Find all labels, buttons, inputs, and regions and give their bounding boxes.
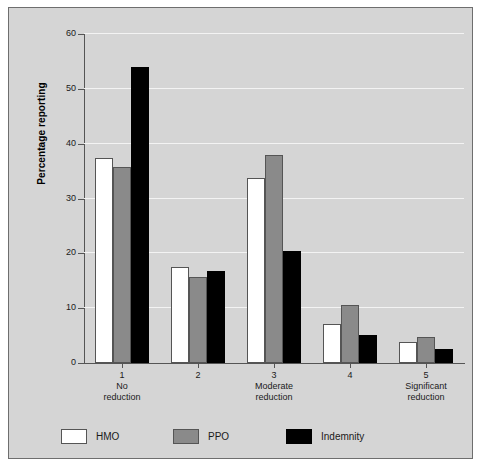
x-tick-3 xyxy=(274,363,275,368)
bar-group-5 xyxy=(399,34,453,363)
y-tick-label-wrap-30: 30 xyxy=(31,199,76,200)
y-tick-label-wrap-0: 0 xyxy=(31,363,76,364)
x-axis-label-number: 5 xyxy=(371,370,481,381)
legend-swatch-ind xyxy=(286,429,312,444)
bar-hmo-3 xyxy=(247,178,265,363)
x-tick-4 xyxy=(350,363,351,368)
y-tick-label: 30 xyxy=(36,193,76,203)
legend-label-ind: Indemnity xyxy=(321,431,364,442)
legend-swatch-ppo xyxy=(173,429,199,444)
y-tick-label-wrap-40: 40 xyxy=(31,144,76,145)
x-axis-label-line2: reduction xyxy=(219,392,329,403)
y-tick-label: 10 xyxy=(36,302,76,312)
bar-hmo-4 xyxy=(323,324,341,363)
legend-item-hmo[interactable]: HMO xyxy=(61,425,119,447)
bar-hmo-5 xyxy=(399,342,417,363)
legend-swatch-hmo xyxy=(61,429,87,444)
y-axis-title: Percentage reporting xyxy=(36,54,47,214)
bar-ppo-4 xyxy=(341,305,359,363)
y-tick-label: 60 xyxy=(36,28,76,38)
x-axis-label-line1: Significant xyxy=(371,381,481,392)
bar-group-2 xyxy=(171,34,225,363)
x-axis-label-line2: reduction xyxy=(371,392,481,403)
legend-item-ind[interactable]: Indemnity xyxy=(286,425,364,447)
bar-hmo-2 xyxy=(171,267,189,363)
bar-indemnity-5 xyxy=(435,349,453,363)
chart-figure: Percentage reporting 0102030405060 1Nore… xyxy=(0,0,491,471)
bar-ppo-2 xyxy=(189,277,207,363)
legend-label-hmo: HMO xyxy=(96,431,119,442)
y-tick-label-wrap-10: 10 xyxy=(31,308,76,309)
x-tick-1 xyxy=(122,363,123,368)
y-tick-label: 50 xyxy=(36,83,76,93)
legend-item-ppo[interactable]: PPO xyxy=(173,425,229,447)
y-tick-label-wrap-60: 60 xyxy=(31,34,76,35)
x-axis-label-line1: No xyxy=(67,381,177,392)
bar-group-1 xyxy=(95,34,149,363)
y-tick-label: 0 xyxy=(36,357,76,367)
y-tick-label: 40 xyxy=(36,138,76,148)
y-tick-label-wrap-50: 50 xyxy=(31,89,76,90)
x-tick-5 xyxy=(426,363,427,368)
x-axis-label-line2: reduction xyxy=(67,392,177,403)
bar-group-3 xyxy=(247,34,301,363)
bar-group-4 xyxy=(323,34,377,363)
bar-indemnity-2 xyxy=(207,271,225,363)
bar-ppo-1 xyxy=(113,167,131,363)
plot-area xyxy=(84,34,464,363)
y-tick-label: 20 xyxy=(36,247,76,257)
y-tick-0 xyxy=(78,363,84,364)
x-tick-2 xyxy=(198,363,199,368)
bar-ppo-3 xyxy=(265,155,283,363)
chart-panel: Percentage reporting 0102030405060 1Nore… xyxy=(8,7,473,459)
bar-indemnity-3 xyxy=(283,251,301,363)
legend-label-ppo: PPO xyxy=(208,431,229,442)
x-axis-label-line1: Moderate xyxy=(219,381,329,392)
bar-indemnity-1 xyxy=(131,67,149,363)
y-tick-label-wrap-20: 20 xyxy=(31,253,76,254)
bar-ppo-5 xyxy=(417,337,435,363)
bar-hmo-1 xyxy=(95,158,113,363)
x-axis-label-5: 5Significantreduction xyxy=(371,370,481,403)
bar-indemnity-4 xyxy=(359,335,377,364)
